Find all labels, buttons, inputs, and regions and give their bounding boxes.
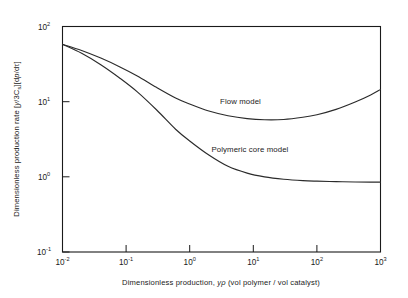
x-tick-label-1e2: 102	[311, 256, 323, 267]
curve-flow-model	[63, 44, 381, 120]
curve-label-polymeric-core-model: Polymeric core model	[211, 145, 288, 154]
curve-polymeric-core-model	[63, 44, 381, 182]
y-axis-ticks	[63, 27, 70, 253]
y-tick-label-1e2: 102	[38, 21, 50, 32]
y-tick-labels: 102 101 100 10-1	[37, 21, 51, 257]
figure-container: 102 101 100 10-1 10-2 10-1 100	[0, 0, 408, 298]
x-axis-title: Dimensionless production, yρ (vol polyme…	[122, 278, 320, 287]
y-tick-label-1e0: 100	[38, 171, 50, 182]
y-tick-label-1em1: 10-1	[37, 246, 51, 257]
x-axis-ticks	[63, 245, 381, 252]
x-tick-label-1e1: 101	[247, 256, 259, 267]
y-axis-title: Dimensionless production rate [y/3Cs][dp…	[12, 61, 22, 216]
chart-svg: 102 101 100 10-1 10-2 10-1 100	[0, 0, 408, 298]
plot-frame	[63, 27, 381, 253]
curve-label-flow-model: Flow model	[220, 97, 261, 106]
x-tick-label-1em1: 10-1	[119, 256, 133, 267]
x-tick-labels: 10-2 10-1 100 101 102 103	[55, 256, 386, 267]
y-tick-label-1e1: 101	[38, 96, 50, 107]
x-tick-label-1e0: 100	[184, 256, 196, 267]
x-tick-label-1em2: 10-2	[55, 256, 69, 267]
x-tick-label-1e3: 103	[374, 256, 386, 267]
